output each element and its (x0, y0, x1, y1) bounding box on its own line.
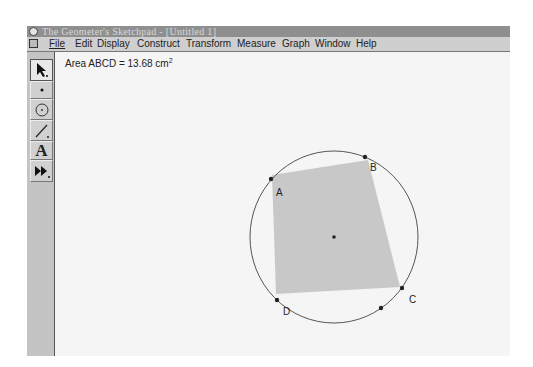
point-d[interactable] (275, 298, 279, 302)
circle-center-point[interactable] (332, 235, 336, 239)
point-a[interactable] (269, 177, 273, 181)
label-d[interactable]: D (283, 306, 290, 317)
quadrilateral-abcd-interior[interactable] (272, 160, 400, 294)
label-a[interactable]: A (276, 187, 283, 198)
point-on-circle[interactable] (379, 306, 383, 310)
sketchpad-window: The Geometer's Sketchpad - [Untitled 1] … (27, 26, 510, 356)
label-b[interactable]: B (370, 162, 377, 173)
point-b[interactable] (363, 155, 367, 159)
label-c[interactable]: C (409, 294, 416, 305)
point-c[interactable] (400, 286, 404, 290)
geometry-layer: A B C D (27, 26, 510, 356)
